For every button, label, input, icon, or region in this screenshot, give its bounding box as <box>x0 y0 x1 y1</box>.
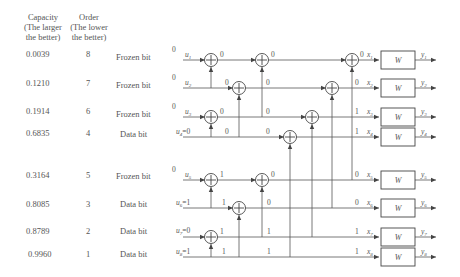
svg-text:u5: u5 <box>185 170 192 180</box>
xor-icon <box>205 111 218 124</box>
svg-text:1: 1 <box>267 227 271 236</box>
svg-text:0: 0 <box>355 198 359 207</box>
xor-icon <box>256 54 269 67</box>
xor-icon <box>205 174 218 187</box>
xor-icon <box>256 174 269 187</box>
svg-text:y5: y5 <box>420 170 427 180</box>
svg-text:x7: x7 <box>366 227 373 237</box>
svg-text:1: 1 <box>267 247 271 256</box>
svg-text:u6=1: u6=1 <box>176 198 190 208</box>
xor-icon <box>233 202 246 215</box>
svg-text:u7=0: u7=0 <box>176 226 190 236</box>
svg-text:0: 0 <box>355 78 359 87</box>
svg-text:1: 1 <box>355 247 359 256</box>
codeword-labels: x1 x2 x3 x4 x5 x6 x7 x8 <box>366 50 373 257</box>
svg-text:u8=1: u8=1 <box>176 247 190 257</box>
xor-icon <box>233 82 246 95</box>
svg-text:1: 1 <box>355 127 359 136</box>
svg-text:0: 0 <box>266 78 270 87</box>
svg-text:0: 0 <box>220 50 224 59</box>
xor-icon <box>284 131 297 144</box>
xor-icon <box>346 54 359 67</box>
svg-text:1: 1 <box>222 198 226 207</box>
stage1-bits: 0 0 0 0 1 1 1 1 <box>220 50 229 256</box>
svg-text:y7: y7 <box>420 227 427 237</box>
svg-text:x3: x3 <box>366 107 373 117</box>
svg-text:x6: x6 <box>366 198 373 208</box>
svg-text:y3: y3 <box>420 107 427 117</box>
svg-text:y8: y8 <box>420 247 427 257</box>
svg-text:0: 0 <box>271 170 275 179</box>
svg-text:1: 1 <box>222 247 226 256</box>
input-value: 0 <box>172 102 176 111</box>
svg-text:0: 0 <box>220 107 224 116</box>
svg-text:x4: x4 <box>366 127 373 137</box>
output-labels: y1 y2 y3 y4 y5 y6 y7 y8 <box>420 50 427 257</box>
svg-text:0: 0 <box>266 127 270 136</box>
svg-text:x1: x1 <box>366 50 373 60</box>
input-value: 0 <box>172 165 176 174</box>
output-bits: 0 0 1 1 0 0 1 1 <box>355 50 364 256</box>
svg-text:x8: x8 <box>366 247 373 257</box>
svg-text:y6: y6 <box>420 198 427 208</box>
svg-text:u3: u3 <box>185 107 192 117</box>
svg-text:0: 0 <box>360 50 364 59</box>
xor-icon <box>205 231 218 244</box>
svg-text:1: 1 <box>220 170 224 179</box>
svg-text:u4=0: u4=0 <box>176 127 190 137</box>
svg-text:u2: u2 <box>185 78 192 88</box>
xor-icon <box>306 111 319 124</box>
svg-text:0: 0 <box>271 50 275 59</box>
svg-text:1: 1 <box>355 227 359 236</box>
svg-text:x5: x5 <box>366 170 373 180</box>
svg-text:y1: y1 <box>420 50 427 60</box>
input-value: 0 <box>172 73 176 82</box>
svg-text:y4: y4 <box>420 127 427 137</box>
svg-text:x2: x2 <box>366 78 373 88</box>
xor-icon <box>205 54 218 67</box>
stage2-bits: 0 0 0 0 0 0 1 1 <box>266 50 275 256</box>
svg-text:0: 0 <box>267 198 271 207</box>
xor-icon <box>326 82 339 95</box>
svg-text:y2: y2 <box>420 78 427 88</box>
svg-text:0: 0 <box>225 127 229 136</box>
svg-text:0: 0 <box>266 107 270 116</box>
svg-text:0: 0 <box>225 78 229 87</box>
svg-text:1: 1 <box>220 227 224 236</box>
svg-text:1: 1 <box>355 107 359 116</box>
svg-text:0: 0 <box>355 170 359 179</box>
polar-encoder-diagram: W W W W W W W W 0 0 0 0 u1 u2 u3 u4=0 u5… <box>0 0 460 277</box>
svg-text:u1: u1 <box>185 50 191 60</box>
input-labels: u1 u2 u3 u4=0 u5 u6=1 u7=0 u8=1 <box>176 50 192 257</box>
input-value: 0 <box>172 45 176 54</box>
